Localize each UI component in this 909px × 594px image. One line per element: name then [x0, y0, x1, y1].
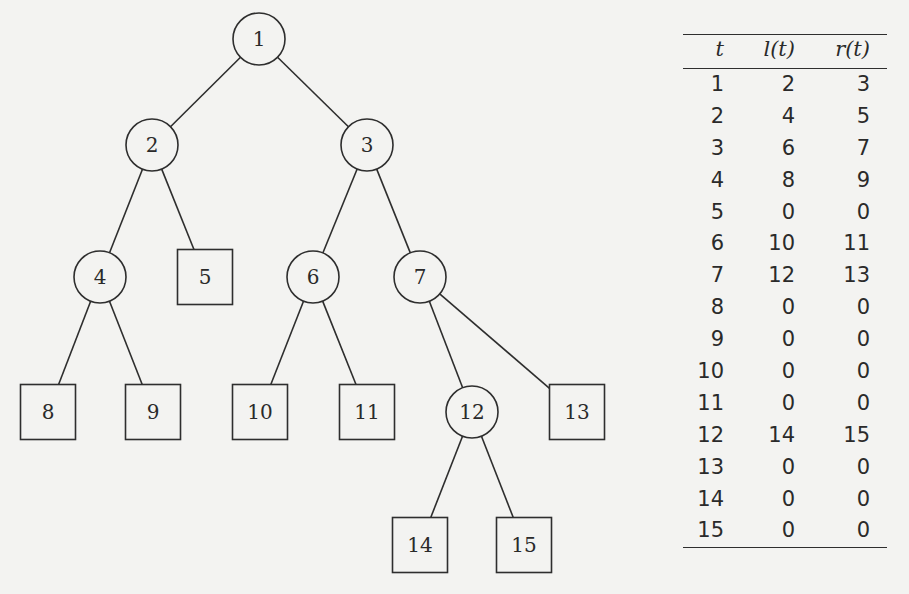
node-label: 2 — [146, 133, 159, 157]
edge-7-12 — [429, 301, 462, 387]
edge-4-8 — [59, 301, 91, 384]
node-label: 14 — [407, 533, 432, 557]
node-label: 13 — [564, 400, 589, 424]
cell-right-child: 0 — [830, 518, 870, 542]
cell-left-child: 0 — [755, 359, 795, 383]
node-label: 9 — [147, 400, 160, 424]
table-row: 71213 — [683, 260, 887, 292]
cell-t: 9 — [684, 327, 724, 351]
cell-left-child: 8 — [755, 168, 795, 192]
edge-1-3 — [278, 57, 349, 127]
cell-right-child: 0 — [830, 295, 870, 319]
node-label: 5 — [199, 265, 212, 289]
cell-right-child: 0 — [830, 359, 870, 383]
cell-right-child: 9 — [830, 168, 870, 192]
table-row: 367 — [683, 133, 887, 165]
header-left-child: l(t) — [763, 37, 795, 61]
cell-left-child: 2 — [755, 72, 795, 96]
cell-t: 10 — [684, 359, 724, 383]
table-row: 1100 — [683, 388, 887, 420]
edge-3-6 — [323, 169, 357, 253]
node-label: 3 — [361, 133, 374, 157]
node-label: 11 — [354, 400, 379, 424]
table-body: 1232453674895006101171213800900100011001… — [683, 69, 887, 547]
tree-nodes: 123456789101112131415 — [21, 13, 605, 573]
leaf-node: 5 — [178, 250, 233, 305]
table-row: 61011 — [683, 228, 887, 260]
node-label: 8 — [42, 400, 55, 424]
cell-right-child: 0 — [830, 391, 870, 415]
internal-node: 2 — [126, 119, 178, 171]
internal-node: 1 — [233, 13, 285, 65]
leaf-node: 11 — [340, 385, 395, 440]
cell-t: 12 — [684, 423, 724, 447]
cell-left-child: 4 — [755, 104, 795, 128]
cell-t: 15 — [684, 518, 724, 542]
cell-left-child: 0 — [755, 518, 795, 542]
cell-t: 5 — [684, 200, 724, 224]
node-label: 1 — [253, 27, 266, 51]
cell-left-child: 0 — [755, 455, 795, 479]
table-row: 900 — [683, 324, 887, 356]
table-bottom-rule — [683, 547, 887, 548]
edge-12-15 — [481, 436, 513, 517]
cell-t: 11 — [684, 391, 724, 415]
table-header-row: t l(t) r(t) — [683, 35, 887, 68]
leaf-node: 15 — [497, 518, 552, 573]
table-row: 1500 — [683, 515, 887, 547]
edge-6-10 — [271, 301, 304, 384]
node-label: 6 — [307, 265, 320, 289]
table-row: 1000 — [683, 356, 887, 388]
edge-6-11 — [323, 301, 356, 384]
node-label: 10 — [247, 400, 272, 424]
cell-right-child: 0 — [830, 327, 870, 351]
cell-left-child: 14 — [755, 423, 795, 447]
table-row: 1300 — [683, 452, 887, 484]
cell-left-child: 6 — [755, 136, 795, 160]
table-row: 489 — [683, 165, 887, 197]
cell-t: 13 — [684, 455, 724, 479]
cell-right-child: 7 — [830, 136, 870, 160]
cell-t: 3 — [684, 136, 724, 160]
table-row: 500 — [683, 197, 887, 229]
header-t: t — [716, 37, 724, 61]
node-label: 12 — [459, 400, 484, 424]
cell-left-child: 0 — [755, 200, 795, 224]
table-row: 123 — [683, 69, 887, 101]
child-index-table: t l(t) r(t) 1232453674895006101171213800… — [683, 34, 887, 548]
cell-t: 1 — [684, 72, 724, 96]
cell-left-child: 12 — [755, 263, 795, 287]
cell-right-child: 0 — [830, 200, 870, 224]
cell-right-child: 13 — [830, 263, 870, 287]
table-row: 800 — [683, 292, 887, 324]
leaf-node: 8 — [21, 385, 76, 440]
cell-t: 8 — [684, 295, 724, 319]
cell-right-child: 0 — [830, 487, 870, 511]
edge-4-9 — [110, 301, 143, 384]
node-label: 7 — [414, 265, 427, 289]
cell-t: 7 — [684, 263, 724, 287]
edge-1-2 — [170, 57, 240, 126]
edge-3-7 — [377, 169, 411, 253]
cell-t: 14 — [684, 487, 724, 511]
internal-node: 12 — [446, 386, 498, 438]
cell-right-child: 5 — [830, 104, 870, 128]
cell-t: 4 — [684, 168, 724, 192]
tree-edges — [59, 57, 550, 517]
edge-2-5 — [162, 169, 194, 249]
leaf-node: 14 — [393, 518, 448, 573]
internal-node: 3 — [341, 119, 393, 171]
internal-node: 4 — [74, 251, 126, 303]
cell-left-child: 0 — [755, 487, 795, 511]
cell-right-child: 0 — [830, 455, 870, 479]
cell-t: 2 — [684, 104, 724, 128]
edge-7-13 — [440, 294, 550, 388]
node-label: 15 — [511, 533, 536, 557]
cell-left-child: 0 — [755, 295, 795, 319]
cell-right-child: 15 — [830, 423, 870, 447]
internal-node: 7 — [394, 251, 446, 303]
cell-t: 6 — [684, 231, 724, 255]
table-row: 121415 — [683, 420, 887, 452]
node-label: 4 — [94, 265, 107, 289]
edge-2-4 — [110, 169, 143, 253]
